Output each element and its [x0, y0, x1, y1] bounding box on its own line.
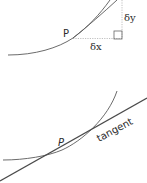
point-p-label-bottom: P	[58, 137, 65, 148]
diagram-canvas: P δy δx P tangent	[0, 0, 147, 183]
delta-y-label: δy	[124, 12, 136, 23]
tangent-line	[0, 98, 147, 181]
right-angle-marker	[114, 31, 122, 39]
bottom-curve	[3, 91, 117, 160]
top-figure: P δy δx	[8, 0, 136, 55]
point-p-label-top: P	[63, 28, 69, 39]
delta-x-label: δx	[90, 41, 102, 52]
bottom-figure: P tangent	[0, 91, 147, 181]
